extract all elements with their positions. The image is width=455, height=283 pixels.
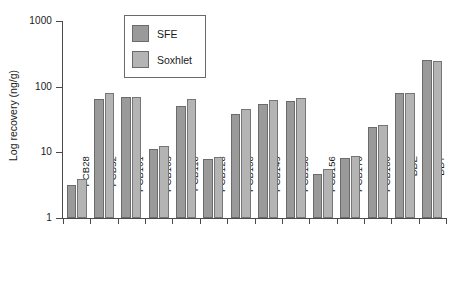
- bar-soxhlet-pcb156: [323, 169, 333, 218]
- bar-soxhlet-pcb28: [77, 179, 87, 218]
- bar-sfe-pcb52: [94, 99, 104, 218]
- bar-soxhlet-pcb180: [378, 125, 388, 218]
- bar-sfe-dde: [395, 93, 405, 218]
- bar-soxhlet-pcb138: [241, 109, 251, 218]
- y-tick-mark: [56, 87, 63, 88]
- bar-soxhlet-pcb128: [214, 157, 224, 218]
- bar-sfe-pcb153: [286, 101, 296, 218]
- bar-sfe-pcb101: [121, 97, 131, 218]
- bar-chart: 1000100101 Log recovery (ng/g) PCB28PCB5…: [0, 0, 455, 283]
- bar-group: [63, 21, 90, 218]
- bar-sfe-pcb118: [176, 106, 186, 218]
- bar-sfe-pcb156: [313, 174, 323, 218]
- bar-group: [227, 21, 254, 218]
- bar-sfe-pcb180: [368, 127, 378, 218]
- bar-sfe-pcb138: [231, 114, 241, 218]
- bar-sfe-pcb28: [67, 185, 77, 218]
- bar-group: [282, 21, 309, 218]
- bar-sfe-pcb170: [340, 158, 350, 218]
- plot-area: [63, 21, 446, 218]
- y-tick-label: 1: [0, 213, 52, 223]
- x-tick-mark: [63, 218, 64, 224]
- bar-sfe-ddt: [422, 60, 432, 218]
- bar-soxhlet-pcb52: [105, 93, 115, 218]
- x-tick-mark: [364, 218, 365, 224]
- y-tick-mark: [56, 21, 63, 22]
- bar-soxhlet-pcb153: [296, 98, 306, 218]
- bar-group: [419, 21, 446, 218]
- bar-soxhlet-dde: [405, 93, 415, 218]
- bar-soxhlet-pcb105: [159, 146, 169, 218]
- y-tick-mark: [56, 152, 63, 153]
- bar-soxhlet-pcb149: [269, 100, 279, 218]
- bar-group: [391, 21, 418, 218]
- legend: SFE Soxhlet: [124, 15, 206, 78]
- y-axis-title-wrap: Log recovery (ng/g): [0, 0, 1, 1]
- bar-soxhlet-ddt: [433, 61, 443, 218]
- y-tick-label: 1000: [0, 16, 52, 26]
- bar-group: [364, 21, 391, 218]
- bar-sfe-pcb149: [258, 104, 268, 218]
- legend-label-sfe: SFE: [157, 28, 177, 40]
- x-tick-mark: [227, 218, 228, 224]
- bar-group: [255, 21, 282, 218]
- legend-label-soxhlet: Soxhlet: [157, 54, 192, 66]
- bar-group: [90, 21, 117, 218]
- bar-soxhlet-pcb118: [187, 99, 197, 218]
- y-axis-title: Log recovery (ng/g): [8, 41, 19, 191]
- x-tick-mark: [145, 218, 146, 224]
- bar-sfe-pcb105: [149, 149, 159, 218]
- bar-group: [337, 21, 364, 218]
- bar-group: [309, 21, 336, 218]
- x-tick-mark: [446, 218, 447, 224]
- bar-sfe-pcb128: [203, 159, 213, 218]
- legend-swatch-sfe-icon: [132, 25, 149, 42]
- legend-swatch-soxhlet-icon: [132, 51, 149, 68]
- bar-soxhlet-pcb101: [132, 97, 142, 218]
- bar-soxhlet-pcb170: [351, 156, 361, 218]
